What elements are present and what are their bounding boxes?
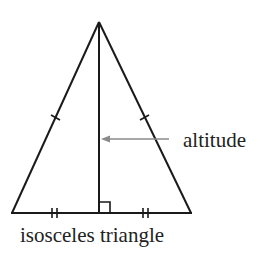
right-angle-marker [99, 202, 110, 213]
diagram-caption: isosceles triangle [20, 225, 164, 246]
arrowhead-icon [101, 136, 110, 143]
altitude-label: altitude [183, 130, 246, 151]
